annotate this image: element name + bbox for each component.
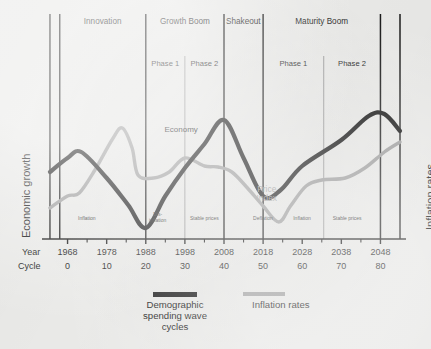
legend-swatch-demographic-spending-wave: [153, 292, 197, 297]
year-tick-2038: 2038: [331, 247, 351, 257]
phase-label-maturity-phase-1: Phase 1: [279, 60, 307, 69]
regime-label-stable-prices-1: Stable prices: [190, 216, 219, 222]
legend-swatch-inflation-rates: [243, 292, 285, 296]
regime-label-stable-prices-2: Stable prices: [333, 216, 362, 222]
cycle-tick-0: 0: [65, 261, 70, 271]
legend-label-demographic-spending-wave: Demographicspending wavecycles: [143, 299, 207, 332]
phase-label-growth-phase-2: Phase 2: [190, 60, 218, 69]
year-tick-1998: 1998: [175, 247, 195, 257]
curve-label-economy: Economy: [164, 126, 197, 135]
axis-row-header-year: Year: [22, 247, 40, 257]
year-tick-2048: 2048: [370, 247, 390, 257]
data-series-lines: [50, 112, 400, 228]
cycle-tick-40: 40: [219, 261, 229, 271]
era-label-innovation: Innovation: [84, 17, 122, 26]
curve-label-price-index: PriceIndex: [257, 185, 278, 203]
era-label-maturity-boom: Maturity Boom: [295, 17, 348, 26]
year-tick-1978: 1978: [97, 247, 117, 257]
year-tick-2028: 2028: [292, 247, 312, 257]
regime-label-inflation-1: Inflation: [78, 216, 96, 222]
regime-label-inflation-2: Inflation: [293, 216, 311, 222]
y-axis-title-economic-growth: Economic growth: [20, 154, 32, 238]
phase-label-growth-phase-1: Phase 1: [151, 60, 179, 69]
year-tick-2018: 2018: [253, 247, 273, 257]
economic-cycle-chart: Innovation Growth Boom Shakeout Maturity…: [0, 0, 431, 349]
era-divider-lines: [50, 14, 400, 239]
axis-row-header-cycle: Cycle: [18, 261, 41, 271]
era-label-shakeout: Shakeout: [226, 17, 261, 26]
cycle-tick-30: 30: [180, 261, 190, 271]
cycle-tick-20: 20: [141, 261, 151, 271]
cycle-tick-10: 10: [102, 261, 112, 271]
phase-label-maturity-phase-2: Phase 2: [338, 60, 366, 69]
year-tick-2008: 2008: [214, 247, 234, 257]
y-axis-title-inflation-rates: Inflation rates: [424, 164, 431, 230]
phase-divider-lines: [185, 56, 324, 239]
cycle-tick-60: 60: [297, 261, 307, 271]
legend-label-inflation-rates: Inflation rates: [252, 299, 310, 310]
cycle-tick-50: 50: [258, 261, 268, 271]
regime-label-deflation: Deflation: [253, 216, 273, 222]
year-tick-1968: 1968: [58, 247, 78, 257]
era-label-growth-boom: Growth Boom: [160, 17, 210, 26]
cycle-tick-80: 80: [375, 261, 385, 271]
regime-label-disinflation: Dis-inflation: [149, 212, 166, 223]
cycle-tick-70: 70: [336, 261, 346, 271]
year-tick-1988: 1988: [136, 247, 156, 257]
chart-canvas: [0, 0, 431, 349]
